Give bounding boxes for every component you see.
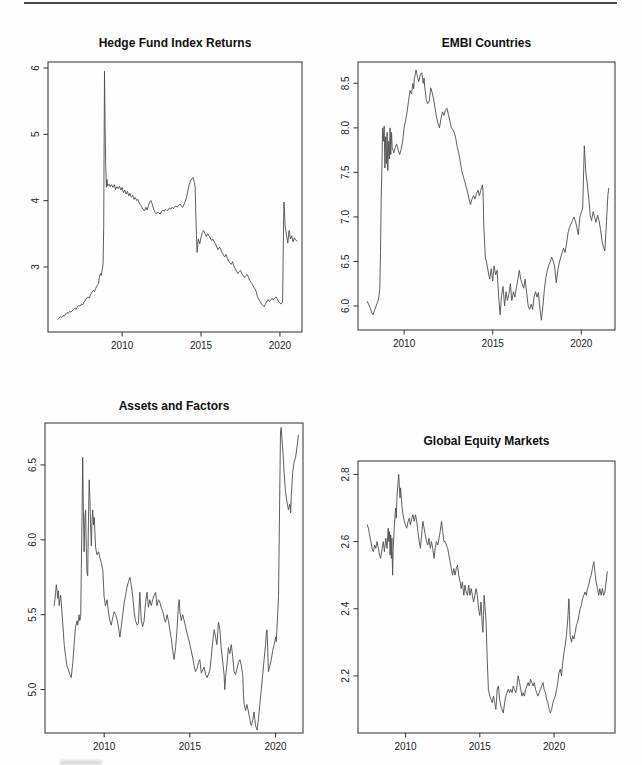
global-equity-markets-plot: 2010201520202.22.42.62.8 <box>330 390 640 762</box>
x-tick-label: 2020 <box>269 340 292 351</box>
x-tick-label: 2015 <box>482 338 505 349</box>
y-tick-label: 4 <box>30 197 41 203</box>
y-tick-label: 6.0 <box>340 299 351 313</box>
x-tick-label: 2020 <box>543 741 566 752</box>
hedge-fund-index-returns-plot: 2010201520203456 <box>10 30 320 365</box>
series-group <box>58 71 297 319</box>
x-tick-label: 2010 <box>93 741 116 752</box>
plot-box <box>48 62 302 332</box>
assets-and-factors-line <box>54 428 298 731</box>
cropped-caption-fragment <box>60 760 102 765</box>
embi-countries-chart: 2010201520206.06.57.07.58.08.5 <box>330 30 640 365</box>
y-axis: 5.05.56.06.5 <box>27 458 45 697</box>
y-tick-label: 2.8 <box>340 467 351 481</box>
page-top-rule <box>24 2 617 4</box>
y-axis: 3456 <box>30 65 48 270</box>
x-axis: 201020152020 <box>111 332 291 351</box>
embi-countries-line <box>367 70 609 320</box>
global-equity-markets-line <box>367 474 607 713</box>
y-tick-label: 2.4 <box>340 601 351 615</box>
x-tick-label: 2020 <box>570 338 593 349</box>
y-tick-label: 7.0 <box>340 210 351 224</box>
y-tick-label: 2.2 <box>340 669 351 683</box>
y-tick-label: 6 <box>30 65 41 71</box>
x-tick-label: 2015 <box>179 741 202 752</box>
series-group <box>54 428 298 731</box>
hedge-fund-index-line <box>58 71 297 319</box>
global-equity-markets-chart: 2010201520202.22.42.62.8 <box>330 390 640 762</box>
x-tick-label: 2010 <box>111 340 134 351</box>
assets-and-factors-chart: 2010201520205.05.56.06.5 <box>10 390 320 762</box>
y-axis: 6.06.57.07.58.08.5 <box>340 76 358 313</box>
y-tick-label: 7.5 <box>340 165 351 179</box>
y-tick-label: 8.5 <box>340 76 351 90</box>
x-tick-label: 2010 <box>394 741 417 752</box>
y-tick-label: 5 <box>30 131 41 137</box>
scanned-book-page: Hedge Fund Index Returns 201020152020345… <box>0 0 642 765</box>
x-tick-label: 2020 <box>264 741 287 752</box>
y-tick-label: 8.0 <box>340 121 351 135</box>
y-tick-label: 5.0 <box>27 682 38 696</box>
y-tick-label: 6.5 <box>340 254 351 268</box>
y-axis: 2.22.42.62.8 <box>340 467 358 683</box>
x-tick-label: 2010 <box>393 338 416 349</box>
x-tick-label: 2015 <box>469 741 492 752</box>
y-tick-label: 6.5 <box>27 458 38 472</box>
x-axis: 201020152020 <box>394 733 565 752</box>
y-tick-label: 6.0 <box>27 532 38 546</box>
y-tick-label: 3 <box>30 264 41 270</box>
assets-and-factors-plot: 2010201520205.05.56.06.5 <box>10 390 320 762</box>
y-tick-label: 5.5 <box>27 607 38 621</box>
x-axis: 201020152020 <box>93 733 287 752</box>
plot-box <box>45 423 303 733</box>
x-tick-label: 2015 <box>190 340 213 351</box>
y-tick-label: 2.6 <box>340 534 351 548</box>
x-axis: 201020152020 <box>393 330 593 349</box>
series-group <box>367 474 607 713</box>
embi-countries-plot: 2010201520206.06.57.07.58.08.5 <box>330 30 640 365</box>
series-group <box>367 70 609 320</box>
hedge-fund-index-returns-chart: 2010201520203456 <box>10 30 320 365</box>
plot-box <box>358 62 615 330</box>
